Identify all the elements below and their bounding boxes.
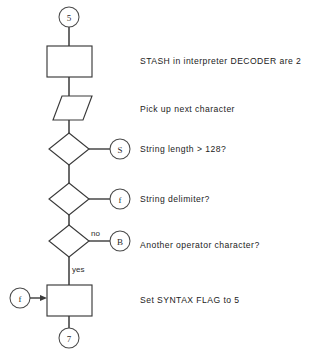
- description-string-delimiter: String delimiter?: [140, 195, 210, 204]
- arrowhead-into-syntax-box: [40, 295, 47, 301]
- process-box-stash: [47, 46, 92, 77]
- description-operator-character: Another operator character?: [140, 241, 260, 250]
- description-pickup: Pick up next character: [140, 105, 235, 114]
- description-stash: STASH in interpreter DECODER are 2: [140, 57, 301, 66]
- process-box-syntax-flag: [47, 285, 92, 316]
- flowchart-page: 5 S f B no yes f 7 STASH in interpreter …: [0, 0, 325, 358]
- connector-5-label: 5: [67, 13, 72, 23]
- connector-B-label: B: [117, 237, 123, 247]
- decision-diamond-string-length: [49, 133, 89, 165]
- connector-S-label: S: [117, 145, 122, 155]
- connector-7-label: 7: [67, 334, 72, 344]
- decision-diamond-operator-character: [49, 225, 89, 257]
- connector-f-right-label: f: [119, 195, 122, 205]
- branch-label-yes: yes: [72, 265, 84, 274]
- branch-label-no: no: [91, 229, 100, 238]
- description-string-length: String length > 128?: [140, 145, 226, 154]
- decision-diamond-string-delimiter: [49, 183, 89, 215]
- connector-f-left-label: f: [19, 294, 22, 304]
- description-syntax-flag: Set SYNTAX FLAG to 5: [140, 296, 240, 305]
- io-parallelogram-pickup: [53, 96, 92, 120]
